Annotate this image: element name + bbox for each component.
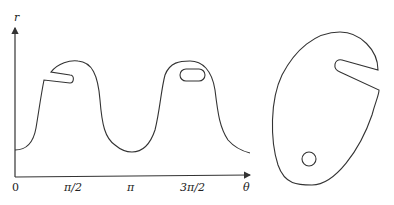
x-axis-label: θ	[243, 182, 250, 193]
x-tick-pi-half: π/2	[64, 182, 82, 193]
x-tick-3pi-half: 3π/2	[180, 182, 205, 193]
cam-shape-outline	[272, 32, 379, 185]
circular-hole	[302, 152, 316, 166]
diagram-canvas	[0, 0, 394, 205]
x-axis	[15, 175, 250, 177]
x-tick-0: 0	[12, 182, 19, 193]
y-axis-label: r	[14, 12, 19, 23]
radial-profile-curve	[15, 61, 250, 153]
oval-hole	[180, 69, 205, 81]
x-tick-pi: π	[127, 182, 134, 193]
